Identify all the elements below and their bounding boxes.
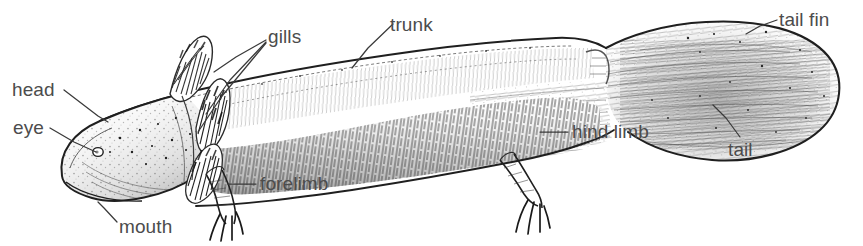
label-forelimb: forelimb — [260, 174, 328, 193]
label-tail: tail — [728, 140, 753, 159]
label-eye: eye — [13, 118, 44, 137]
label-head: head — [12, 80, 55, 99]
illustration-canvas — [0, 0, 863, 246]
leader-line-head — [64, 90, 108, 122]
label-gills: gills — [268, 27, 301, 46]
leader-line-trunk — [352, 24, 393, 68]
label-hind-limb: hind limb — [572, 122, 649, 141]
label-mouth: mouth — [119, 217, 172, 236]
label-trunk: trunk — [390, 15, 433, 34]
leader-line-mouth — [98, 202, 117, 222]
hind-limb-shape — [500, 153, 550, 234]
label-tail-fin: tail fin — [779, 10, 829, 29]
leader-line-gills — [214, 40, 266, 72]
tail-fin-shape — [596, 14, 852, 170]
anatomy-figure: headeyemouthgillsforelimbtrunkhind limbt… — [0, 0, 863, 246]
